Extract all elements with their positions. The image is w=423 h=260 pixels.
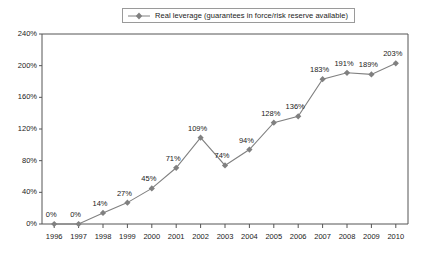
data-point-label: 183% xyxy=(310,66,329,74)
data-point-label: 71% xyxy=(166,154,181,162)
y-axis-tick-label: 200% xyxy=(3,62,37,70)
plot-area xyxy=(0,0,423,260)
y-axis-tick-label: 240% xyxy=(3,30,37,38)
data-point-marker xyxy=(124,200,130,206)
leverage-line-chart: Real leverage (guarantees in force/risk … xyxy=(0,0,423,260)
data-point-marker xyxy=(393,60,399,66)
data-point-label: 74% xyxy=(214,152,229,160)
y-axis-tick-label: 0% xyxy=(3,220,37,228)
data-point-label: 191% xyxy=(334,59,353,67)
y-axis-tick-label: 160% xyxy=(3,94,37,102)
data-point-label: 128% xyxy=(261,109,280,117)
data-point-label: 203% xyxy=(383,50,402,58)
data-point-marker xyxy=(51,221,57,227)
data-point-label: 109% xyxy=(188,124,207,132)
data-point-label: 189% xyxy=(359,61,378,69)
y-axis-tick-label: 120% xyxy=(3,125,37,133)
data-point-label: 0% xyxy=(46,211,57,219)
data-point-label: 45% xyxy=(141,175,156,183)
y-axis-tick-label: 80% xyxy=(3,157,37,165)
data-point-marker xyxy=(320,76,326,82)
data-point-marker xyxy=(295,113,301,119)
data-point-marker xyxy=(76,221,82,227)
data-point-marker xyxy=(344,70,350,76)
x-axis-tick-label: 2010 xyxy=(381,233,411,241)
data-point-label: 94% xyxy=(239,136,254,144)
data-point-label: 136% xyxy=(286,103,305,111)
x-axis-ticks xyxy=(54,224,396,228)
data-point-label: 27% xyxy=(117,189,132,197)
data-point-marker xyxy=(368,71,374,77)
data-point-marker xyxy=(100,210,106,216)
data-point-label: 0% xyxy=(70,211,81,219)
y-axis-tick-label: 40% xyxy=(3,189,37,197)
data-point-label: 14% xyxy=(92,199,107,207)
